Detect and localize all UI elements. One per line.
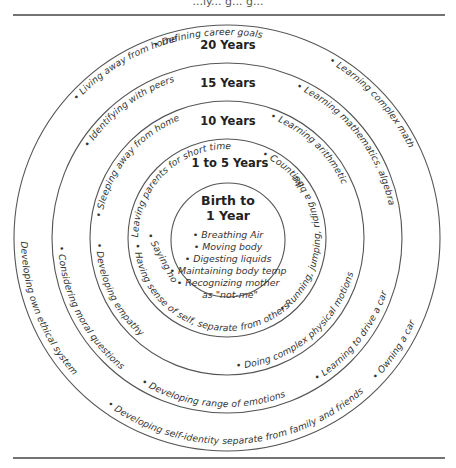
center-title-line1: Birth to [201, 193, 255, 208]
ring-item-10: • Learning arithmetic [269, 110, 350, 186]
ring-item-15: • Developing range of emotions [140, 376, 287, 409]
center-item: • Digesting liquids [185, 253, 272, 264]
ring-item-20: • Developing own ethical system [0, 0, 80, 377]
ring-label-15-years: 15 Years [200, 76, 256, 90]
ring-item-20: • Owning a car [369, 317, 417, 382]
development-diagram: ...ly... g... g... 20 Years 15 Years 10 … [0, 0, 456, 468]
ring-label-20-years: 20 Years [200, 38, 256, 52]
header-fragment: ...ly... g... g... [193, 0, 264, 8]
center-item: • Moving body [194, 241, 263, 252]
center-item: • Recognizing mother [177, 277, 281, 288]
center-item: • Breathing Air [193, 229, 264, 240]
ring-item-20: • Developing self-identity separate from… [106, 385, 366, 446]
center-item: as "not-me" [202, 289, 258, 300]
center-title-line2: 1 Year [206, 208, 251, 223]
ring-label-1-to-5-years: 1 to 5 Years [192, 156, 269, 170]
ring-label-10-years: 10 Years [200, 114, 256, 128]
center-item: • Maintaining body temp [169, 265, 286, 276]
ring-item-20: • Learning complex math [327, 54, 417, 149]
